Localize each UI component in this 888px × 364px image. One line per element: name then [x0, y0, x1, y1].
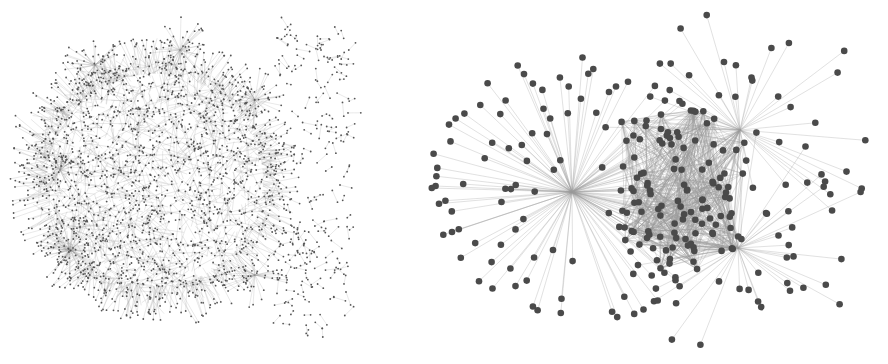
network-graph-left-canvas: [0, 0, 420, 364]
nodes: [429, 12, 869, 348]
nodes: [10, 16, 362, 338]
network-graph-left: [0, 0, 420, 364]
network-graph-right: [420, 0, 888, 364]
edges: [11, 17, 361, 337]
network-graph-right-canvas: [420, 0, 888, 364]
